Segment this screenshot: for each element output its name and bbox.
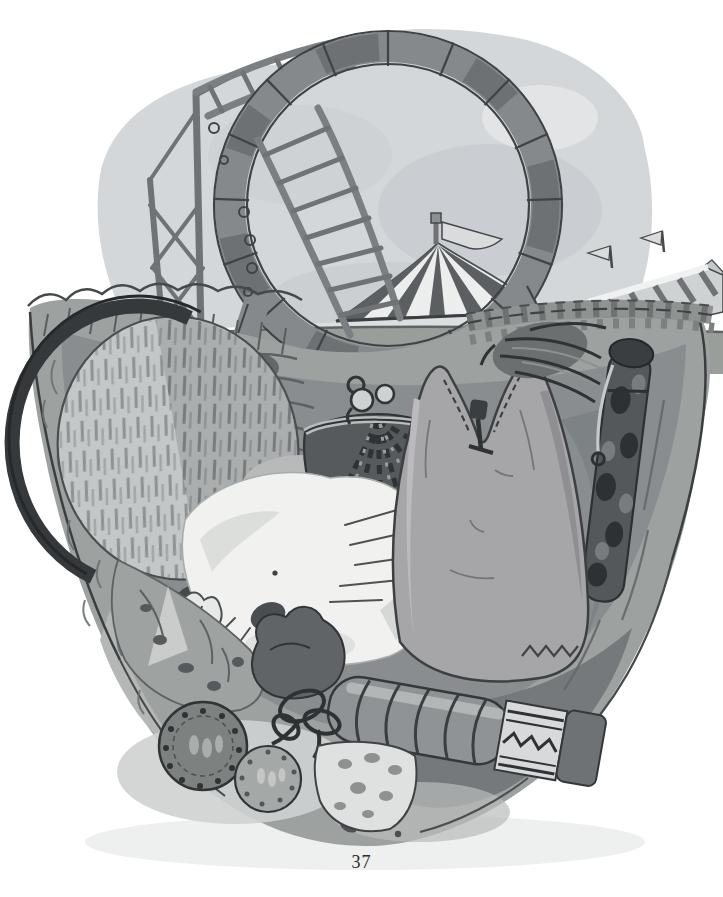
illustration [0, 0, 723, 897]
page-number: 37 [0, 852, 723, 873]
clove-orange-small [235, 746, 301, 812]
sky-wash [98, 29, 653, 338]
book-page: 37 [0, 0, 723, 897]
clove-orange-large [159, 702, 247, 790]
